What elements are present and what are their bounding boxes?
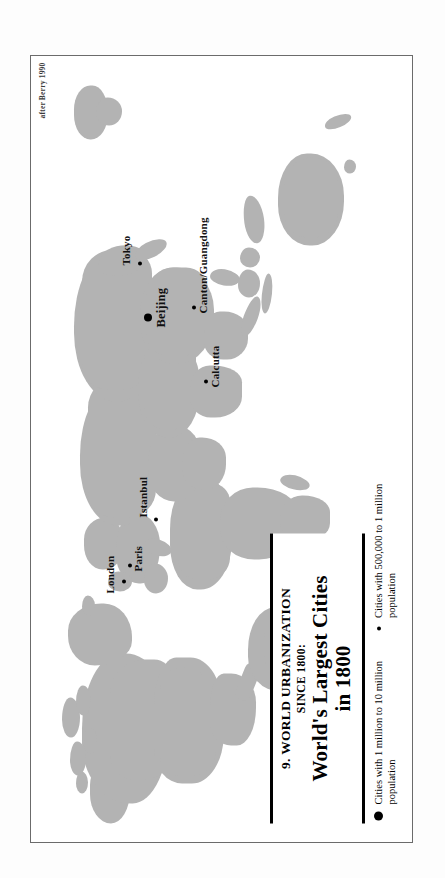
- city-dot-small-icon: [154, 518, 158, 522]
- city-label-istanbul: Istanbul: [138, 477, 149, 518]
- legend-small-dot-icon: [371, 623, 384, 635]
- city-dot-small-icon: [128, 564, 132, 568]
- land-iberia: [144, 564, 168, 594]
- land-philippines: [208, 267, 240, 288]
- city-label-tokyo: Tokyo: [121, 236, 132, 266]
- title-rule-bottom: [361, 534, 364, 824]
- legend-medium-line1: Cities with 500,000 to 1 million: [372, 484, 383, 618]
- land-borneo: [238, 270, 260, 298]
- plate-subtitle-text: SINCE 1800:: [294, 644, 306, 713]
- map-main-title-line-1-text: World's Largest Cities: [307, 575, 331, 781]
- legend-large-cities-text: Cities with 1 million to 10 million popu…: [371, 661, 397, 805]
- city-dot-small-icon: [204, 380, 208, 384]
- city-dot-small-icon: [192, 306, 196, 310]
- land-australia-block: [284, 158, 338, 238]
- map-legend: Cities with 1 million to 10 million popu…: [371, 534, 397, 824]
- land-arctic-islands-4: [76, 686, 91, 716]
- map-main-title-line-2: in 1800: [332, 534, 356, 824]
- city-dot-small-icon: [138, 262, 142, 266]
- land-tasmania: [344, 160, 356, 174]
- legend-large-line1: Cities with 1 million to 10 million: [372, 661, 383, 805]
- land-java: [259, 273, 273, 314]
- plate-number-and-series: 9. WORLD URBANIZATION: [278, 534, 294, 824]
- land-arctic-islands-3: [84, 728, 97, 754]
- legend-medium-cities-text: Cities with 500,000 to 1 million populat…: [371, 484, 397, 618]
- land-new-guinea: [240, 194, 266, 244]
- land-iceland: [82, 596, 95, 616]
- legend-large-line2: population: [385, 760, 396, 805]
- land-far-east-wrap-2: [96, 98, 122, 126]
- city-label-beijing: Beijing: [155, 288, 168, 328]
- legend-medium-line2: population: [385, 573, 396, 618]
- page-background: London Paris Istanbul Calcutta Beijing: [0, 0, 445, 878]
- land-arctic-islands-5: [76, 772, 88, 794]
- land-arabia: [182, 438, 226, 490]
- legend-item-large-cities: Cities with 1 million to 10 million popu…: [371, 661, 397, 822]
- land-greenland: [68, 604, 132, 666]
- city-label-calcutta: Calcutta: [210, 346, 221, 388]
- plate-number-text: 9. WORLD URBANIZATION: [278, 588, 293, 769]
- plate-subtitle: SINCE 1800:: [294, 534, 308, 824]
- legend-item-medium-cities: Cities with 500,000 to 1 million populat…: [371, 484, 397, 635]
- map-main-title-line-1: World's Largest Cities: [308, 534, 332, 824]
- land-arctic-islands-1: [70, 742, 86, 776]
- land-new-zealand: [322, 111, 352, 133]
- map-plate: London Paris Istanbul Calcutta Beijing: [30, 55, 413, 843]
- land-sulawesi: [240, 248, 260, 268]
- land-madagascar: [278, 472, 310, 493]
- map-attribution: after Berry 1990: [38, 63, 47, 119]
- rotated-map-canvas: London Paris Istanbul Calcutta Beijing: [32, 57, 412, 842]
- legend-large-dot-icon: [371, 810, 384, 822]
- city-dot-large-icon: [144, 314, 152, 322]
- land-usa-block: [160, 668, 216, 776]
- city-label-paris: Paris: [133, 546, 144, 571]
- city-dot-small-icon: [122, 580, 126, 584]
- city-label-canton-guangdong: Canton/Guangdong: [198, 217, 209, 313]
- title-rule-top: [270, 534, 273, 824]
- title-and-legend-block: 9. WORLD URBANIZATION SINCE 1800: World'…: [270, 534, 398, 824]
- map-main-title-line-2-text: in 1800: [331, 645, 355, 711]
- city-label-london: London: [105, 556, 116, 594]
- land-japan: [132, 235, 170, 264]
